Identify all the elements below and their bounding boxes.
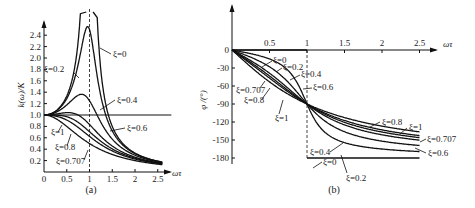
curve-label: ξ=0.8 [244, 95, 265, 105]
x-tick-label: 2.5 [152, 174, 164, 184]
curve-label: ξ=0.4 [117, 95, 138, 105]
y-tick-label: -90 [217, 99, 229, 109]
x-axis-arrow-icon [430, 48, 438, 53]
y-tick-label: -60 [217, 81, 229, 91]
y-tick-label: 0 [225, 45, 230, 55]
y-tick-label: 0.4 [30, 144, 42, 154]
figure-canvas: 00.511.522.50.20.40.60.81.01.21.41.61.82… [0, 0, 475, 208]
y-axis-arrow-icon [230, 4, 235, 12]
x-tick-label: 1 [305, 38, 310, 48]
x-tick-label: 0 [42, 174, 47, 184]
curve-label: ξ=1 [409, 122, 423, 132]
x-axis-arrow-icon [164, 170, 172, 175]
curve-label: ξ=0.8 [55, 142, 76, 152]
curve-label: ξ=0.6 [313, 82, 334, 92]
leader-line [420, 139, 426, 142]
amplitude-chart: 00.511.522.50.20.40.60.81.01.21.41.61.82… [16, 8, 182, 196]
curve-label: ξ=0 [323, 157, 337, 167]
figure: 00.511.522.50.20.40.60.81.01.21.41.61.82… [0, 0, 475, 208]
leader-line [415, 148, 426, 153]
curve-label: ξ=0.707 [236, 85, 266, 95]
y-tick-label: -30 [217, 63, 229, 73]
x-tick-label: 0.5 [61, 174, 73, 184]
phase-caption: (b) [328, 184, 340, 196]
leader-line [303, 88, 312, 89]
phase-x-label: ωτ [443, 39, 453, 49]
y-tick-label: 1.8 [30, 64, 42, 74]
leader-line [100, 48, 111, 54]
x-tick-label: 0.5 [264, 38, 276, 48]
y-tick-label: -180 [213, 153, 230, 163]
y-axis-arrow-icon [42, 20, 47, 28]
y-tick-label: 2.4 [30, 30, 42, 40]
amplitude-y-label: k(ω)/K [16, 82, 26, 108]
curve-label: ξ=0 [113, 49, 127, 59]
leader-line [276, 68, 282, 72]
curve-label: ξ=0.2 [346, 173, 366, 183]
curve-label: ξ=0.707 [56, 156, 86, 166]
y-tick-label: 1.0 [30, 110, 42, 120]
curve-label: ξ=0.8 [382, 117, 403, 127]
phase-curve-labels: ξ=0ξ=0.2ξ=0.4ξ=0.6ξ=0.707ξ=0.8ξ=1ξ=0.8ξ=… [236, 55, 457, 183]
x-tick-label: 1.5 [107, 174, 119, 184]
y-tick-label: 0.2 [30, 156, 41, 166]
curve-label: ξ=0.4 [301, 69, 322, 79]
x-tick-label: 2 [380, 38, 385, 48]
y-tick-label: 2.0 [30, 53, 42, 63]
curve-label: ξ=0.6 [127, 123, 148, 133]
y-tick-label: 2.2 [30, 42, 41, 52]
curve-label: ξ=0.6 [428, 148, 449, 158]
leader-line [313, 162, 322, 168]
x-tick-label: 2.5 [414, 38, 426, 48]
y-tick-label: 1.6 [30, 76, 42, 86]
y-tick-label: 1.2 [30, 99, 41, 109]
amplitude-x-label: ωτ [172, 168, 182, 178]
curve-label: ξ=0.2 [44, 64, 64, 74]
y-tick-label: -150 [213, 135, 230, 145]
x-tick-label: 2 [133, 174, 138, 184]
leader-line [279, 100, 283, 114]
leader-line [330, 143, 343, 152]
amplitude-caption: (a) [85, 184, 96, 196]
y-tick-label: 0.8 [30, 121, 42, 131]
y-tick-label: 0.6 [30, 133, 42, 143]
curve-label: ξ=1 [275, 113, 289, 123]
phase-y-label: φ /(°) [198, 90, 208, 109]
y-tick-label: 1.4 [30, 87, 42, 97]
y-tick-label: -120 [213, 117, 230, 127]
curve-label: ξ=1 [51, 127, 65, 137]
curve-label: ξ=0.4 [310, 147, 331, 157]
x-tick-label: 1.5 [339, 38, 351, 48]
curve-label: ξ=0.707 [427, 134, 457, 144]
phase-chart: 0.511.522.50-30-60-90-120-150-180 ξ=0ξ=0… [198, 4, 457, 196]
x-tick-label: 1 [87, 174, 92, 184]
